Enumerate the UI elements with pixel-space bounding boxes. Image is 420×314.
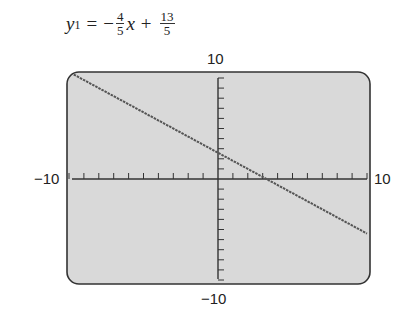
graph-screen [0, 0, 420, 314]
